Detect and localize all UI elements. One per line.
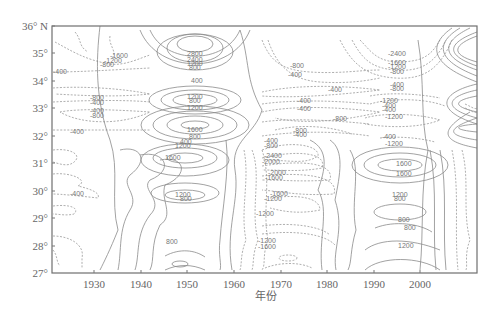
x-axis-title: 年份: [255, 289, 277, 303]
x-tick-label: 1930: [83, 278, 106, 290]
svg-text:800: 800: [398, 216, 410, 223]
svg-text:-400: -400: [297, 97, 311, 104]
svg-text:-800: -800: [264, 142, 278, 149]
y-tick-label: 27°: [33, 267, 48, 279]
svg-text:-400: -400: [382, 106, 396, 113]
svg-text:-800: -800: [333, 115, 347, 122]
svg-text:-1200: -1200: [256, 210, 274, 217]
svg-text:-1600: -1600: [258, 243, 276, 250]
x-tick-label: 1960: [223, 278, 246, 290]
svg-text:1200: 1200: [398, 242, 414, 249]
svg-text:-400: -400: [382, 133, 396, 140]
x-tick-label: 1940: [130, 278, 153, 290]
svg-text:-2000: -2000: [262, 158, 280, 165]
svg-text:-1600: -1600: [265, 174, 283, 181]
x-tick-label: 2000: [409, 278, 432, 290]
svg-text:-400: -400: [53, 68, 67, 75]
y-tick-label: 29°: [33, 212, 48, 224]
svg-text:-400: -400: [90, 99, 104, 106]
svg-text:-400: -400: [293, 131, 307, 138]
svg-text:800: 800: [189, 97, 201, 104]
svg-text:-1200: -1200: [264, 195, 282, 202]
svg-text:-800: -800: [90, 112, 104, 119]
svg-text:-1200: -1200: [385, 140, 403, 147]
x-tick-label: 1970: [270, 278, 293, 290]
x-tick-label: 1990: [363, 278, 386, 290]
contour-chart: -1600 -1200 -800 -400 -800 -400 -400 -80…: [0, 0, 502, 315]
y-tick-label: 28°: [33, 240, 48, 252]
svg-text:1600: 1600: [396, 160, 412, 167]
svg-text:1600: 1600: [396, 170, 412, 177]
svg-text:-800: -800: [100, 61, 114, 68]
x-tick-label: 1980: [316, 278, 339, 290]
svg-text:-400: -400: [70, 190, 84, 197]
svg-text:1200: 1200: [187, 104, 203, 111]
y-tick-label: 31°: [33, 157, 48, 169]
svg-text:-400: -400: [328, 86, 342, 93]
svg-text:800: 800: [166, 238, 178, 245]
y-axis: 36° N 35° 34° 33° 32° 31° 30° 29° 28° 27…: [22, 20, 55, 279]
y-tick-label: 33°: [33, 102, 48, 114]
svg-text:800: 800: [180, 195, 192, 202]
svg-text:-400: -400: [70, 128, 84, 135]
svg-text:800: 800: [404, 224, 416, 231]
svg-text:-400: -400: [297, 105, 311, 112]
y-tick-label: 34°: [33, 75, 48, 87]
x-axis: 1930 1940 1950 1960 1970 1980 1990 2000 …: [83, 270, 432, 303]
svg-text:-800: -800: [390, 68, 404, 75]
svg-text:400: 400: [191, 77, 203, 84]
svg-text:-800: -800: [290, 62, 304, 69]
svg-text:800: 800: [394, 195, 406, 202]
x-tick-label: 1950: [176, 278, 199, 290]
y-tick-label: 32°: [33, 130, 48, 142]
svg-text:800: 800: [189, 64, 201, 71]
svg-text:1600: 1600: [187, 126, 203, 133]
y-tick-label: 35°: [33, 47, 48, 59]
svg-text:-400: -400: [288, 71, 302, 78]
y-tick-label: 30°: [33, 185, 48, 197]
svg-text:1600: 1600: [165, 154, 181, 161]
svg-text:-800: -800: [390, 85, 404, 92]
y-tick-label: 36° N: [22, 20, 48, 32]
svg-text:-2400: -2400: [388, 50, 406, 57]
svg-text:-1200: -1200: [385, 113, 403, 120]
svg-text:1200: 1200: [175, 142, 191, 149]
contour-labels: -1600 -1200 -800 -400 -800 -400 -400 -80…: [53, 50, 416, 250]
